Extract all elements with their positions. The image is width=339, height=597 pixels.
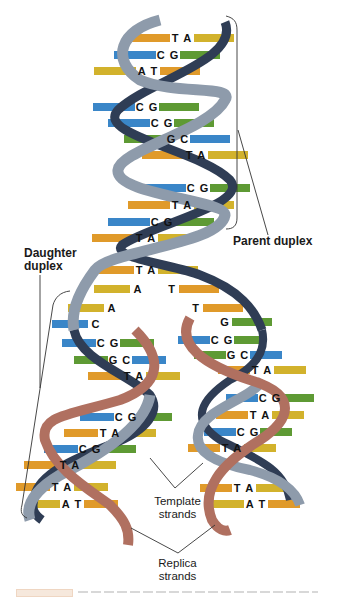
parent-base-pair-letters: G C — [167, 133, 190, 145]
fork-right-letter: G — [220, 316, 230, 328]
daughter-duplex-label-line2: duplex — [24, 259, 63, 273]
parent-base-pair-right-base — [208, 151, 248, 159]
caption-marker — [16, 589, 73, 597]
parent-base-pair-letters: C G — [151, 117, 174, 129]
parent-base-pair-letters: T A — [172, 32, 192, 44]
parent-duplex-pointer — [238, 130, 268, 235]
fork-right-letter: T — [192, 302, 200, 314]
left-daughter-base-pair-letters: G C — [109, 354, 132, 366]
caption-text-cutoff — [78, 591, 318, 593]
fork-right-base — [179, 285, 219, 293]
parent-base-pair-right-base — [190, 135, 230, 143]
right-daughter-base-pair-letters: C G — [237, 426, 260, 438]
fork-left-letter: C — [92, 318, 101, 330]
right-daughter-base-pair-letters: T A — [222, 442, 242, 454]
parent-base-pair-letters: T A — [136, 232, 156, 244]
fork-right-base — [203, 304, 243, 312]
left-daughter-base-pair-left-base — [64, 429, 98, 437]
fork-right-base — [232, 318, 272, 326]
daughter-duplex-label-line1: Daughter — [24, 246, 77, 260]
parent-base-pair-letters: T A — [186, 149, 206, 161]
parent-base-pair-letters: T A — [172, 199, 192, 211]
right-daughter-base-pair-letters: G C — [227, 349, 250, 361]
right-daughter-base-pair-letters: A T — [246, 498, 266, 510]
left-daughter-base-pair-letters: C G — [97, 337, 120, 349]
parent-base-pair-letters: A T — [138, 65, 158, 77]
parent-base-pair-letters: T A — [136, 264, 156, 276]
left-daughter-base-pair-letters: C G — [79, 443, 102, 455]
right-daughter-base-pair-letters: T A — [252, 364, 272, 376]
right-daughter-base-pair-letters: C G — [211, 334, 234, 346]
right-daughter-base-pair-left-base — [212, 500, 244, 508]
left-daughter-base-pair-letters: T A — [60, 459, 80, 471]
replica-strands-pointer — [131, 525, 215, 553]
left-daughter-base-pair-letters: A T — [62, 498, 82, 510]
fork-left-letter: A — [134, 283, 143, 295]
left-daughter-base-pair-letters: T A — [52, 481, 72, 493]
right-daughter-base-pair-right-base — [274, 366, 306, 374]
left-daughter-base-pair-letters: T A — [100, 427, 120, 439]
left-daughter-base-pair-letters: C G — [115, 411, 138, 423]
parent-base-pair-letters: C G — [157, 49, 180, 61]
fork-left-base — [94, 285, 130, 293]
parent-duplex-label: Parent duplex — [233, 234, 312, 248]
right-daughter-base-pair-letters: T A — [250, 409, 270, 421]
parent-base-pair-left-base — [108, 218, 150, 226]
left-daughter-base-pair-letters: T A — [124, 370, 144, 382]
right-daughter-base-pair-letters: T A — [234, 482, 254, 494]
parent-base-pair-left-base — [128, 201, 170, 209]
fork-left-letter: A — [108, 302, 117, 314]
parent-base-pair-letters: C G — [187, 182, 210, 194]
replica-strands-label-line2: strands — [145, 569, 210, 583]
template-strands-label-line1: Template — [145, 494, 210, 508]
parent-base-pair-right-base — [159, 103, 199, 111]
replica-strands-label-line1: Replica — [145, 556, 210, 570]
fork-right-letter: T — [168, 283, 176, 295]
template-strands-label-line2: strands — [145, 507, 210, 521]
right-daughter-base-pair-letters: C G — [259, 392, 282, 404]
parent-base-pair-letters: C G — [136, 101, 159, 113]
template-strands-pointer — [150, 458, 203, 488]
parent-base-pair-letters: C G — [151, 216, 174, 228]
